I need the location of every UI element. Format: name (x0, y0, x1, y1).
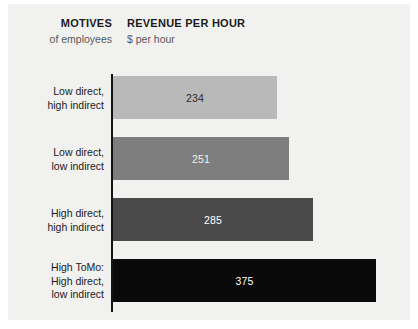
bar[interactable]: 375 (113, 259, 376, 302)
bar-category-label: Low direct,low indirect (8, 129, 104, 190)
bar-row: High direct,high indirect285 (8, 190, 410, 251)
bar[interactable]: 285 (113, 198, 313, 241)
chart-panel: MOTIVES of employees REVENUE PER HOUR $ … (8, 4, 410, 320)
bar-value-label: 234 (186, 92, 204, 104)
header-column-motives: MOTIVES of employees (8, 16, 112, 46)
chart-header: MOTIVES of employees REVENUE PER HOUR $ … (8, 16, 410, 60)
bar-row: Low direct,high indirect234 (8, 68, 410, 129)
motives-subtitle: of employees (8, 32, 112, 46)
bar-rows: Low direct,high indirect234Low direct,lo… (8, 68, 410, 312)
bar-category-label: Low direct,high indirect (8, 68, 104, 129)
bar-row: Low direct,low indirect251 (8, 129, 410, 190)
bar[interactable]: 251 (113, 137, 289, 180)
bar-category-label-line: Low direct, (53, 85, 104, 99)
motives-title: MOTIVES (8, 16, 112, 30)
bar-category-label-line: High direct, (51, 275, 104, 289)
bar-category-label-line: Low direct, (53, 146, 104, 160)
bar-category-label: High ToMo:High direct,low indirect (8, 251, 104, 312)
bar[interactable]: 234 (113, 76, 277, 119)
bar-value-label: 251 (192, 153, 210, 165)
bar-row: High ToMo:High direct,low indirect375 (8, 251, 410, 312)
bar-wrapper: 234 (113, 76, 277, 119)
bar-category-label: High direct,high indirect (8, 190, 104, 251)
bar-wrapper: 251 (113, 137, 289, 180)
bar-category-label-line: high indirect (47, 99, 104, 113)
bar-wrapper: 375 (113, 259, 376, 302)
bar-category-label-line: low indirect (51, 288, 104, 302)
revenue-title: REVENUE PER HOUR (127, 16, 245, 30)
bar-category-label-line: high indirect (47, 221, 104, 235)
bar-wrapper: 285 (113, 198, 313, 241)
header-column-revenue: REVENUE PER HOUR $ per hour (127, 16, 245, 46)
bar-category-label-line: High direct, (51, 207, 104, 221)
bar-value-label: 285 (204, 214, 222, 226)
revenue-subtitle: $ per hour (127, 32, 245, 46)
bar-category-label-line: High ToMo: (51, 261, 104, 275)
bar-value-label: 375 (235, 275, 253, 287)
bar-category-label-line: low indirect (51, 160, 104, 174)
bar-chart-plot: Low direct,high indirect234Low direct,lo… (8, 68, 410, 312)
